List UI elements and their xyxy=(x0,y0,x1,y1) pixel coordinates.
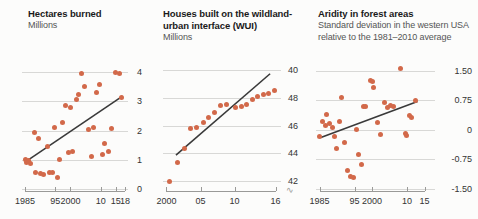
data-point xyxy=(382,100,387,105)
data-point xyxy=(89,154,94,159)
data-point xyxy=(60,120,65,125)
data-point xyxy=(330,125,335,130)
x-axis-tick xyxy=(70,187,71,191)
panel-1-y-axis-labels: 01234 xyxy=(131,62,153,189)
y-axis-tick-label: 4 xyxy=(137,68,142,77)
data-point xyxy=(91,125,96,130)
data-point xyxy=(351,175,356,180)
data-point xyxy=(391,104,396,109)
y-axis-tick-label: 46 xyxy=(288,122,298,131)
data-point xyxy=(266,91,271,96)
y-axis-tick-label: 44 xyxy=(288,149,298,158)
trend-line xyxy=(163,62,281,189)
data-point xyxy=(317,134,322,139)
data-point xyxy=(345,168,350,173)
x-axis-tick xyxy=(407,187,408,191)
panel-1-subtitle: Millions xyxy=(28,20,147,32)
panel-2-y-axis-labels: 4244464840 xyxy=(284,62,308,189)
y-axis-tick-label: 3 xyxy=(137,97,142,106)
y-axis-tick-label: 1 xyxy=(137,156,142,165)
x-axis-tick xyxy=(372,187,373,191)
y-axis-tick-label: 2 xyxy=(137,127,142,136)
data-point xyxy=(74,97,79,102)
y-axis-tick-label: 48 xyxy=(288,94,298,103)
data-point xyxy=(409,115,414,120)
panel-3-header: Aridity in forest areas Standard deviati… xyxy=(310,0,478,43)
y-axis-tick-label: 0 xyxy=(137,185,142,194)
data-point xyxy=(404,133,409,138)
x-axis-tick-label: 1985 xyxy=(309,197,329,206)
x-axis-tick xyxy=(276,187,277,191)
data-point xyxy=(106,149,111,154)
gridline xyxy=(316,189,435,190)
data-point xyxy=(212,110,217,115)
panel-2-axis-break-icon: ∿ xyxy=(286,186,294,195)
panel-2-title: Houses built on the wildland-urban inter… xyxy=(163,8,302,32)
x-axis-tick-label: 1985 xyxy=(15,197,35,206)
data-point xyxy=(167,179,172,184)
x-axis-tick xyxy=(425,187,426,191)
x-axis-tick-label: 2000 xyxy=(362,197,382,206)
y-axis-tick-label: 0 xyxy=(467,126,472,135)
data-point xyxy=(97,82,102,87)
x-axis-tick xyxy=(320,187,321,191)
panel-2-plot-area xyxy=(163,62,281,189)
x-axis-tick-label: 05 xyxy=(195,197,205,206)
data-point xyxy=(356,152,361,157)
y-axis-tick-label: -1.50 xyxy=(451,185,472,194)
y-axis-tick-label: -0.75 xyxy=(451,155,472,164)
x-axis-tick-label: 2000 xyxy=(60,197,80,206)
data-point xyxy=(68,105,73,110)
data-point xyxy=(109,126,114,131)
panel-aridity: Aridity in forest areas Standard deviati… xyxy=(310,0,478,219)
panel-3-title: Aridity in forest areas xyxy=(318,8,470,20)
x-axis-line xyxy=(25,191,125,192)
data-point xyxy=(378,132,383,137)
panel-1-plot-area xyxy=(22,62,128,189)
data-point xyxy=(70,149,75,154)
panel-3-y-axis-labels: -1.50-0.7500.751.50 xyxy=(437,62,472,189)
x-axis-tick xyxy=(55,187,56,191)
panel-wui-houses: Houses built on the wildland-urban inter… xyxy=(155,0,310,219)
x-axis-tick xyxy=(25,187,26,191)
data-point xyxy=(194,125,199,130)
y-axis-tick-label: 0.75 xyxy=(454,96,472,105)
data-point xyxy=(261,92,266,97)
data-point xyxy=(250,97,255,102)
panel-2-header: Houses built on the wildland-urban inter… xyxy=(155,0,310,44)
data-point xyxy=(175,160,180,165)
x-axis-tick xyxy=(116,187,117,191)
y-axis-tick-label: 40 xyxy=(288,66,298,75)
data-point xyxy=(371,85,376,90)
x-axis-tick-label: 95 xyxy=(50,197,60,206)
x-axis-tick xyxy=(101,187,102,191)
data-point xyxy=(359,162,364,167)
data-point xyxy=(201,120,206,125)
x-axis-tick xyxy=(201,187,202,191)
x-axis-line xyxy=(166,191,275,192)
x-axis-tick-label: 18 xyxy=(120,197,130,206)
data-point xyxy=(370,79,375,84)
x-axis-tick-label: 95 xyxy=(349,197,359,206)
x-axis-tick xyxy=(355,187,356,191)
panel-2-subtitle: Millions xyxy=(163,32,302,44)
data-point xyxy=(52,125,57,130)
data-point xyxy=(41,172,46,177)
x-axis-line xyxy=(320,191,425,192)
x-axis-tick-label: 10 xyxy=(230,197,240,206)
x-axis-tick-label: 10 xyxy=(402,197,412,206)
panel-3-subtitle: Standard deviation in the western USA re… xyxy=(318,20,470,43)
x-axis-tick-label: 16 xyxy=(271,197,281,206)
x-axis-tick-label: 2000 xyxy=(156,197,176,206)
panel-1-header: Hectares burned Millions xyxy=(0,0,155,32)
panel-3-plot-area xyxy=(316,62,435,189)
x-axis-tick-label: 10 xyxy=(96,197,106,206)
panel-hectares-burned: Hectares burned Millions 01234 198595200… xyxy=(0,0,155,219)
data-point xyxy=(57,157,62,162)
x-axis-tick xyxy=(235,187,236,191)
data-point xyxy=(398,66,403,71)
panel-1-title: Hectares burned xyxy=(28,8,147,20)
data-point xyxy=(55,175,60,180)
x-axis-tick xyxy=(125,187,126,191)
data-point xyxy=(50,170,55,175)
